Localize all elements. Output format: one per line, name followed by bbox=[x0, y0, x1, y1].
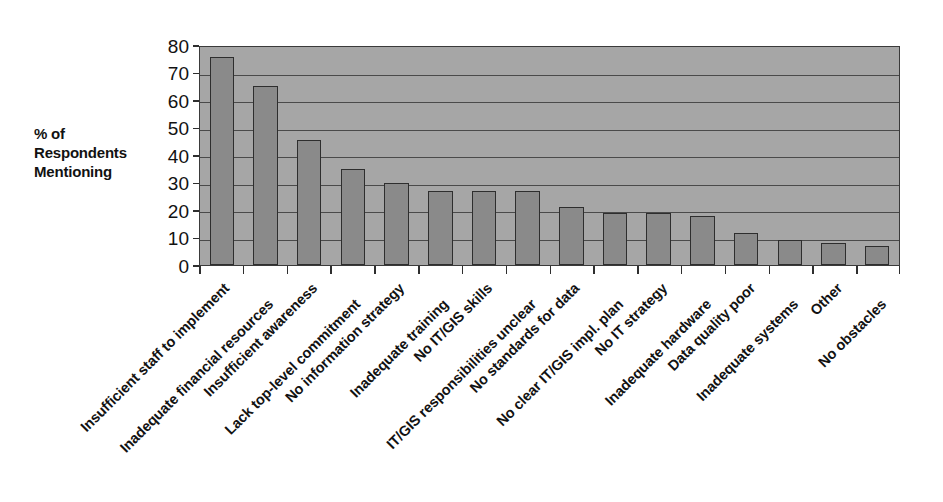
x-tick-mark bbox=[856, 266, 900, 274]
x-tick-mark-end bbox=[899, 266, 901, 274]
bar[interactable] bbox=[341, 169, 365, 265]
bar-slot bbox=[506, 47, 550, 265]
bar-slot bbox=[418, 47, 462, 265]
bar-slot bbox=[331, 47, 375, 265]
bar-slot bbox=[287, 47, 331, 265]
bar-slot bbox=[244, 47, 288, 265]
x-tick-mark bbox=[462, 266, 506, 274]
y-tick-label-70: 70 bbox=[168, 64, 193, 83]
y-tick-label-80: 80 bbox=[168, 37, 193, 56]
bar-slot bbox=[724, 47, 768, 265]
x-tick-mark bbox=[812, 266, 856, 274]
bar[interactable] bbox=[690, 216, 714, 266]
y-tick-label-20: 20 bbox=[168, 202, 193, 221]
y-tick-label-50: 50 bbox=[168, 119, 193, 138]
bar-slot bbox=[855, 47, 899, 265]
bar[interactable] bbox=[734, 233, 758, 265]
x-tick-mark bbox=[550, 266, 594, 274]
bar-slot bbox=[462, 47, 506, 265]
bar[interactable] bbox=[253, 86, 277, 265]
plot-area bbox=[199, 46, 900, 266]
x-tick-mark bbox=[287, 266, 331, 274]
bar[interactable] bbox=[821, 243, 845, 265]
bar[interactable] bbox=[515, 191, 539, 265]
x-axis-category-labels: Insufficient staff to implementInadequat… bbox=[0, 274, 943, 502]
x-tick-mark bbox=[418, 266, 462, 274]
bar-chart-figure: % of Respondents Mentioning 807060504030… bbox=[0, 0, 943, 502]
y-axis-title-line-1: % of bbox=[34, 124, 174, 143]
x-tick-mark bbox=[593, 266, 637, 274]
y-tick-label-10: 10 bbox=[168, 229, 193, 248]
x-tick-mark bbox=[199, 266, 243, 274]
bar[interactable] bbox=[297, 140, 321, 265]
x-tick-mark bbox=[243, 266, 287, 274]
x-tick-mark bbox=[330, 266, 374, 274]
x-tick-mark bbox=[506, 266, 550, 274]
bar-slot bbox=[768, 47, 812, 265]
bar-slot bbox=[637, 47, 681, 265]
bar[interactable] bbox=[865, 246, 889, 265]
bar-slot bbox=[375, 47, 419, 265]
bar-slot bbox=[812, 47, 856, 265]
bar[interactable] bbox=[646, 213, 670, 265]
bar-slot bbox=[593, 47, 637, 265]
x-tick-mark bbox=[725, 266, 769, 274]
bar-slot bbox=[200, 47, 244, 265]
bars-layer bbox=[200, 47, 899, 265]
bar-slot bbox=[550, 47, 594, 265]
x-tick-mark bbox=[637, 266, 681, 274]
y-axis-title: % of Respondents Mentioning bbox=[34, 124, 174, 181]
y-axis-title-line-3: Mentioning bbox=[34, 162, 174, 181]
y-axis-title-line-2: Respondents bbox=[34, 143, 174, 162]
bar[interactable] bbox=[603, 213, 627, 265]
x-tick-mark bbox=[769, 266, 813, 274]
y-tick-label-60: 60 bbox=[168, 92, 193, 111]
bar[interactable] bbox=[384, 183, 408, 266]
y-tick-label-40: 40 bbox=[168, 147, 193, 166]
bar[interactable] bbox=[472, 191, 496, 265]
x-axis-ticks bbox=[199, 266, 900, 274]
y-tick-label-30: 30 bbox=[168, 174, 193, 193]
x-tick-mark bbox=[681, 266, 725, 274]
bar[interactable] bbox=[559, 207, 583, 265]
bar[interactable] bbox=[778, 240, 802, 265]
bar-slot bbox=[681, 47, 725, 265]
bar[interactable] bbox=[210, 57, 234, 265]
y-tick-label-0: 0 bbox=[178, 257, 193, 276]
bar[interactable] bbox=[428, 191, 452, 265]
y-axis: 80706050403020100 bbox=[160, 46, 199, 266]
x-tick-mark bbox=[374, 266, 418, 274]
